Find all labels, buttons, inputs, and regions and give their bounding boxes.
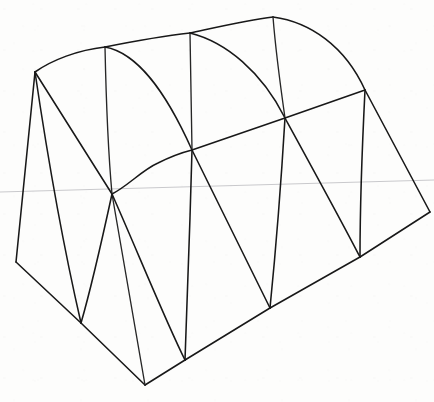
outer-silhouette-edges: [16, 72, 430, 385]
edge-B1-BL: [16, 262, 81, 323]
edge-M2-B5: [285, 118, 360, 257]
edge-T2-M2: [190, 33, 285, 118]
edge-R1-FR: [365, 90, 430, 212]
horizon-guide-line: [0, 180, 434, 192]
edge-T3-R1: [273, 17, 365, 90]
edge-B4-B3: [185, 308, 270, 360]
sketch-canvas: [0, 0, 434, 402]
edge-BL-TL: [16, 72, 35, 262]
lower-rib-edges: [35, 72, 365, 385]
edge-T3-M2: [273, 17, 285, 118]
edge-M1-M2: [192, 118, 285, 150]
edge-T1-M1: [105, 47, 192, 150]
top-ridge-edges: [35, 17, 365, 90]
edge-B3-B2: [145, 360, 185, 385]
edge-M1-B4: [192, 150, 270, 308]
wireframe-drawing: [0, 0, 434, 402]
edge-M2-B4: [270, 118, 285, 308]
edge-M0-B2: [112, 194, 145, 385]
mid-band-edges: [112, 90, 365, 194]
edge-T1-T2: [105, 33, 190, 47]
edge-T2-M1: [190, 33, 192, 150]
guide-lines: [0, 180, 434, 192]
edge-T1-M0: [105, 47, 112, 194]
edge-T2-T3: [190, 17, 273, 33]
edge-M0-B3: [112, 194, 185, 360]
edge-R1-B5: [360, 90, 365, 257]
edge-M0-B1: [81, 194, 112, 323]
edge-TL-M0: [35, 72, 112, 194]
edge-FR-B5: [360, 212, 430, 257]
edge-TL-T1: [35, 47, 105, 72]
edge-M1-B3: [185, 150, 192, 360]
edge-M2-R1: [285, 90, 365, 118]
edge-B5-B4: [270, 257, 360, 308]
upper-rib-edges: [35, 17, 285, 194]
